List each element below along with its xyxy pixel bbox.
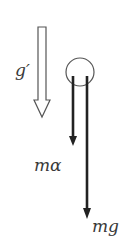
label-ma: mα <box>34 157 62 174</box>
label-mg: mg <box>92 218 119 235</box>
ma-force-arrow-icon <box>69 76 77 146</box>
label-g-prime: g′ <box>15 62 30 79</box>
body-circle-icon <box>66 58 94 86</box>
mg-force-arrow-icon <box>83 76 91 219</box>
hollow-arrow-g-prime-icon <box>34 27 50 117</box>
force-diagram <box>0 0 130 236</box>
